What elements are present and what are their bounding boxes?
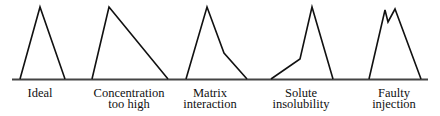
peak-matrix-interaction <box>186 7 247 79</box>
peak-ideal <box>20 7 65 79</box>
label-line: Ideal <box>28 88 53 99</box>
label-faulty-injection: Faulty injection <box>372 88 416 110</box>
label-ideal: Ideal <box>28 88 53 99</box>
peak-solute-insolubility <box>271 7 333 79</box>
label-line: injection <box>372 99 416 110</box>
label-solute-insolubility: Solute insolubility <box>273 88 330 110</box>
peak-concentration-too-high <box>92 7 168 79</box>
label-line: too high <box>94 99 165 110</box>
label-matrix-interaction: Matrix interaction <box>183 88 236 110</box>
label-line: insolubility <box>273 99 330 110</box>
peak-faulty-injection <box>369 9 421 79</box>
label-concentration-too-high: Concentration too high <box>94 88 165 110</box>
label-line: interaction <box>183 99 236 110</box>
